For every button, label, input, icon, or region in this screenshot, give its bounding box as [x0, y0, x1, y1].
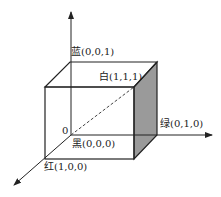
cube-drawing: [0, 0, 221, 197]
vertex-label-blue: 蓝(0,0,1): [71, 47, 114, 57]
vertex-label-white: 白(1,1,1): [99, 72, 142, 82]
diagonal-axis-red: [14, 135, 71, 185]
vertex-label-black: 黑(0,0,0): [72, 139, 115, 149]
rgb-cube-diagram: 蓝(0,0,1) 白(1,1,1) 绿(0,1,0) 0 黑(0,0,0) 红(…: [0, 0, 221, 197]
vertex-label-red: 红(1,0,0): [44, 162, 87, 172]
vertex-label-green: 绿(0,1,0): [160, 119, 203, 129]
origin-label: 0: [62, 126, 68, 136]
gray-diagonal: [71, 87, 134, 135]
